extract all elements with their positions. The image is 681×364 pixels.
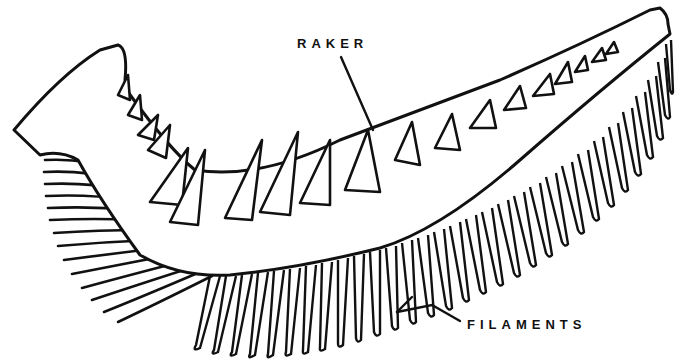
raker-leader-line — [341, 57, 373, 130]
filaments-label: FILAMENTS — [467, 317, 586, 332]
gill-arch-diagram: RAKER FILAMENTS — [0, 0, 681, 364]
gill-arch-drawing — [0, 0, 681, 364]
raker-label: RAKER — [297, 36, 368, 51]
